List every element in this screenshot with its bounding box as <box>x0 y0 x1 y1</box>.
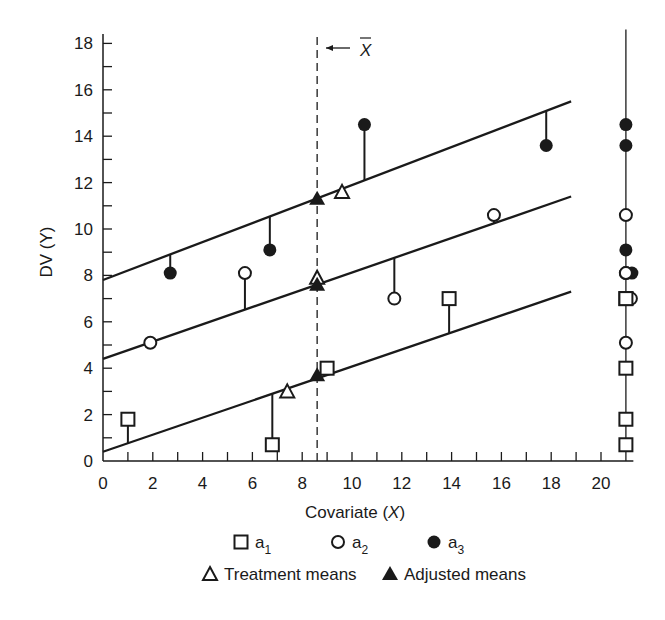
ancova-chart: 02468101214161820024681012141618 DV (Y) … <box>0 0 665 620</box>
x-tick-label: 6 <box>248 474 257 493</box>
filled-triangle-legend-icon <box>382 566 398 580</box>
x-tick-label: 12 <box>392 474 411 493</box>
legend-label: a1 <box>255 533 271 557</box>
x-tick-label: 2 <box>148 474 157 493</box>
projected-point <box>619 413 632 426</box>
projected-point <box>620 337 632 349</box>
data-point-a1 <box>121 413 134 426</box>
legend-entry: a1 <box>235 533 272 557</box>
y-tick-label: 6 <box>84 313 93 332</box>
projected-point <box>620 209 632 221</box>
regression-line-a1 <box>103 292 571 452</box>
x-tick-label: 16 <box>492 474 511 493</box>
y-tick-label: 10 <box>74 220 93 239</box>
legend-entry: Adjusted means <box>382 565 526 584</box>
open-circle-legend-icon <box>332 536 344 548</box>
means-markers <box>280 185 349 398</box>
projected-point <box>619 139 632 152</box>
legend-label: Treatment means <box>224 565 357 584</box>
data-point-a3 <box>164 267 177 280</box>
projected-point <box>620 267 632 279</box>
x-tick-label: 18 <box>542 474 561 493</box>
y-tick-label: 14 <box>74 127 93 146</box>
open-triangle-legend-icon <box>203 567 217 580</box>
legend-label: a2 <box>352 533 368 557</box>
legend-entry: Treatment means <box>203 565 357 584</box>
data-point-a2 <box>388 293 400 305</box>
y-tick-label: 18 <box>74 34 93 53</box>
data-point-a3 <box>540 139 553 152</box>
x-tick-label: 14 <box>442 474 461 493</box>
projected-point <box>619 362 632 375</box>
legend-entry: a3 <box>428 533 465 557</box>
y-tick-label: 12 <box>74 174 93 193</box>
legend: a1a2a3Treatment meansAdjusted means <box>203 533 526 584</box>
y-tick-label: 16 <box>74 81 93 100</box>
data-point-a1 <box>443 292 456 305</box>
y-axis-title: DV (Y) <box>37 227 56 278</box>
x-axis-title: Covariate (X) <box>305 503 405 522</box>
x-tick-label: 10 <box>343 474 362 493</box>
y-tick-label: 4 <box>84 359 93 378</box>
right-margin-projection <box>619 118 638 451</box>
x-tick-label: 8 <box>297 474 306 493</box>
projected-point <box>619 292 632 305</box>
projected-point <box>619 438 632 451</box>
y-tick-label: 0 <box>84 452 93 471</box>
legend-label: Adjusted means <box>404 565 526 584</box>
x-tick-label: 20 <box>592 474 611 493</box>
projected-point <box>619 243 632 256</box>
regression-line-a3 <box>103 101 571 280</box>
data-point-a2 <box>239 267 251 279</box>
xbar-label: X <box>359 41 372 60</box>
data-point-a3 <box>358 118 371 131</box>
filled-circle-legend-icon <box>428 536 441 549</box>
open-square-legend-icon <box>235 536 248 549</box>
data-point-a3 <box>263 243 276 256</box>
adjusted-mean-marker <box>309 191 325 205</box>
legend-entry: a2 <box>332 533 368 557</box>
y-tick-label: 8 <box>84 266 93 285</box>
data-point-a1 <box>321 362 334 375</box>
x-tick-label: 4 <box>198 474 207 493</box>
xbar-annotation: X <box>326 38 372 60</box>
data-point-a1 <box>266 438 279 451</box>
data-point-a2 <box>488 209 500 221</box>
data-points <box>121 118 552 451</box>
x-tick-label: 0 <box>98 474 107 493</box>
axes: 02468101214161820024681012141618 <box>74 29 633 493</box>
legend-label: a3 <box>448 533 464 557</box>
projected-point <box>619 118 632 131</box>
y-tick-label: 2 <box>84 406 93 425</box>
data-point-a2 <box>144 337 156 349</box>
